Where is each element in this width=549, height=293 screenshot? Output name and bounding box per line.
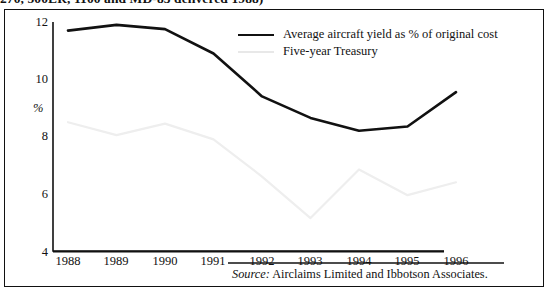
legend-swatch-aircraft-yield — [238, 34, 274, 36]
legend-item-aircraft-yield: Average aircraft yield as % of original … — [238, 26, 528, 43]
y-tick-label-12: 12 — [26, 15, 48, 30]
y-tick-label-6: 6 — [26, 187, 48, 202]
series-line-2 — [68, 122, 456, 218]
source-keyword: Source: — [232, 267, 270, 281]
source-note: Source: Airclaims Limited and Ibbotson A… — [232, 267, 488, 282]
source-text: Airclaims Limited and Ibbotson Associate… — [272, 267, 488, 281]
legend-item-five-year-treasury: Five-year Treasury — [238, 43, 528, 60]
y-tick-label-4: 4 — [26, 245, 48, 260]
legend-label-five-year-treasury: Five-year Treasury — [283, 44, 378, 59]
x-tick-label-1991: 1991 — [193, 254, 233, 269]
y-tick-label-8: 8 — [26, 129, 48, 144]
x-tick-label-1990: 1990 — [145, 254, 185, 269]
y-axis-label: % — [33, 101, 43, 116]
y-tick-label-10: 10 — [26, 72, 48, 87]
x-tick-label-1988: 1988 — [48, 254, 88, 269]
x-tick-label-1989: 1989 — [96, 254, 136, 269]
chart-legend: Average aircraft yield as % of original … — [238, 26, 528, 60]
legend-label-aircraft-yield: Average aircraft yield as % of original … — [283, 27, 498, 42]
chart-figure: 270, 500ER, 1100 and MD-83 delivered 198… — [0, 0, 549, 293]
legend-swatch-five-year-treasury — [238, 51, 274, 53]
